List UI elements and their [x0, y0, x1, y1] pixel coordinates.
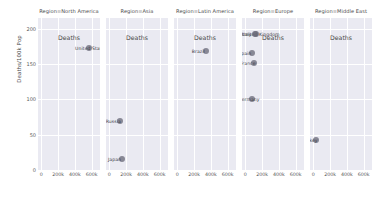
- x-tick-label: 600k: [86, 172, 98, 177]
- y-tick-label: 0: [33, 167, 36, 173]
- data-point-label: Russia: [106, 118, 121, 123]
- facet-panel-title: Region=Europe: [242, 8, 304, 14]
- x-tick-label: 400k: [341, 172, 353, 177]
- x-tick-label: 200k: [120, 172, 132, 177]
- x-tick-label: 400k: [137, 172, 149, 177]
- scatter-chart-figure: Deaths/100k Pop 050100150200 Region=Nort…: [0, 0, 380, 208]
- x-tick-label: 400k: [69, 172, 81, 177]
- facet-panel-latin-america: Region=Latin AmericaBrazil0200k400k600kD…: [174, 18, 236, 170]
- x-tick-label: 0: [176, 172, 179, 177]
- data-point-label: Spain: [242, 51, 251, 56]
- x-axis-tick-labels: 0200k400k600k: [310, 170, 372, 180]
- x-tick-label: 0: [108, 172, 111, 177]
- x-axis-tick-labels: 0200k400k600k: [38, 170, 100, 180]
- facet-panel-north-america: Region=North AmericaUnited States0200k40…: [38, 18, 100, 170]
- facet-panel-title: Region=Middle East: [310, 8, 372, 14]
- facet-panel-europe: Region=EuropeUnited KingdomItalySpainFra…: [242, 18, 304, 170]
- y-axis-tick-labels: 050100150200: [18, 18, 36, 170]
- x-tick-label: 0: [244, 172, 247, 177]
- x-tick-label: 0: [40, 172, 43, 177]
- x-axis-tick-labels: 0200k400k600k: [106, 170, 168, 180]
- x-tick-label: 400k: [273, 172, 285, 177]
- x-tick-label: 400k: [205, 172, 217, 177]
- x-tick-label: 600k: [222, 172, 234, 177]
- data-point-label: Turkey: [310, 138, 318, 143]
- x-tick-label: 0: [312, 172, 315, 177]
- x-axis-label: Deaths: [106, 34, 168, 41]
- x-tick-label: 200k: [256, 172, 268, 177]
- y-tick-label: 200: [26, 26, 36, 32]
- x-tick-label: 200k: [52, 172, 64, 177]
- x-tick-label: 200k: [324, 172, 336, 177]
- x-tick-label: 600k: [290, 172, 302, 177]
- facet-panels: Region=North AmericaUnited States0200k40…: [38, 18, 372, 170]
- x-tick-label: 600k: [358, 172, 370, 177]
- facet-panel-asia: Region=AsiaRussiaJapan0200k400k600kDeath…: [106, 18, 168, 170]
- y-tick-label: 50: [30, 132, 36, 138]
- data-point-label: Germany: [242, 96, 260, 101]
- facet-panel-title: Region=Latin America: [174, 8, 236, 14]
- y-tick-label: 100: [26, 96, 36, 102]
- facet-panel-title: Region=North America: [38, 8, 100, 14]
- facet-panel-middle-east: Region=Middle EastTurkey0200k400k600kDea…: [310, 18, 372, 170]
- x-axis-label: Deaths: [242, 34, 304, 41]
- x-tick-label: 600k: [154, 172, 166, 177]
- y-tick-label: 150: [26, 61, 36, 67]
- data-point-label: Japan: [108, 157, 121, 162]
- facet-panel-title: Region=Asia: [106, 8, 168, 14]
- x-axis-tick-labels: 0200k400k600k: [242, 170, 304, 180]
- x-axis-tick-labels: 0200k400k600k: [174, 170, 236, 180]
- data-point-label: United States: [75, 46, 100, 51]
- x-axis-label: Deaths: [38, 34, 100, 41]
- x-tick-label: 200k: [188, 172, 200, 177]
- x-axis-label: Deaths: [174, 34, 236, 41]
- data-point-label: France: [242, 60, 256, 65]
- x-axis-label: Deaths: [310, 34, 372, 41]
- data-point-label: Brazil: [192, 49, 205, 54]
